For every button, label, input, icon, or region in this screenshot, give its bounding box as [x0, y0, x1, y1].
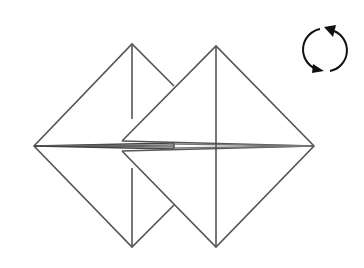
arrowhead-top	[324, 25, 336, 37]
diagram-canvas	[0, 0, 364, 268]
turn-over-icon	[303, 25, 347, 73]
turn-over-arc-right	[330, 31, 347, 71]
center-layers	[34, 141, 314, 151]
arrowhead-bottom	[312, 64, 324, 73]
origami-diagram: Two overlapping square bases viewed as d…	[0, 0, 364, 268]
turn-over-arc-left	[303, 29, 320, 69]
right-inner-line-2	[174, 146, 314, 148]
